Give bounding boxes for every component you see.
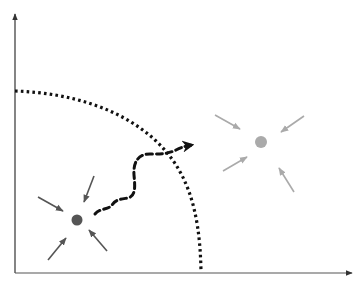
initial-state-dot [72,215,83,226]
inward-arrow-icon [38,197,63,211]
phase-diagram [0,0,357,283]
inward-arrow-icon [215,115,240,129]
target-state-dot [255,136,267,148]
inward-arrow-icon [84,176,94,202]
inward-arrow-icon [89,230,107,251]
inward-arrow-icon [281,116,304,132]
inward-arrow-icon [279,168,294,192]
initial-state-attractor [38,176,107,260]
dotted-boundary-curve [15,91,201,272]
inward-arrow-icon [223,157,247,171]
axes [15,14,352,273]
dashed-transition-path [95,145,192,214]
inward-arrow-icon [48,238,66,260]
target-state-attractor [215,115,304,192]
